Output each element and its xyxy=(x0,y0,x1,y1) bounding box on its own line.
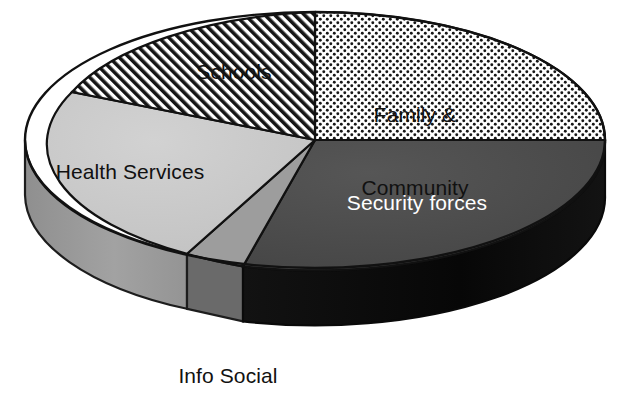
pie-slice-family-community[interactable] xyxy=(315,12,605,140)
pie-chart-figure: Schools Family & Community Security forc… xyxy=(0,0,624,405)
pie-chart-svg xyxy=(0,0,624,405)
